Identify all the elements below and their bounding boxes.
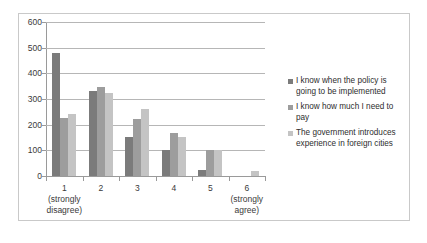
y-axis-tick-label: 600 (16, 18, 42, 27)
bar-group (156, 22, 193, 176)
bar (214, 150, 222, 176)
bar (206, 150, 214, 176)
chart-legend: I know when the policy is going to be im… (288, 76, 404, 154)
bar-group (229, 22, 266, 176)
bar (68, 114, 76, 176)
bar (105, 93, 113, 176)
x-axis-tick-mark (46, 177, 47, 181)
bar (60, 118, 68, 176)
x-axis-tick-mark (229, 177, 230, 181)
bar (125, 137, 133, 176)
x-axis-anchor-label: agree) (212, 205, 282, 216)
bar (170, 133, 178, 176)
chart-figure: 6005004003002001000 I know when the poli… (0, 0, 427, 243)
x-axis-anchor-label: disagree) (29, 205, 99, 216)
bar (52, 53, 60, 176)
bar (162, 150, 170, 176)
legend-item[interactable]: I know how much I need to pay (288, 102, 404, 123)
bar (251, 171, 259, 176)
legend-label: I know how much I need to pay (296, 102, 404, 123)
bar-group (46, 22, 83, 176)
y-axis-tick-mark (42, 48, 46, 49)
y-axis-tick-mark (42, 99, 46, 100)
bar (97, 87, 105, 176)
y-axis-tick-label: 200 (16, 120, 42, 129)
bar (133, 119, 141, 176)
bar-group (83, 22, 120, 176)
legend-swatch-icon (288, 79, 293, 84)
legend-item[interactable]: I know when the policy is going to be im… (288, 76, 404, 97)
y-axis-tick-mark (42, 22, 46, 23)
x-axis-tick-mark (192, 177, 193, 181)
x-axis-anchor-label: (strongly (29, 194, 99, 205)
bar-group (192, 22, 229, 176)
plot-area (46, 22, 265, 176)
y-axis-tick-label: 0 (16, 172, 42, 181)
bar (89, 91, 97, 176)
y-axis-tick-label: 100 (16, 146, 42, 155)
y-axis-tick-mark (42, 73, 46, 74)
x-axis-tick-mark (265, 177, 266, 181)
bar-group (119, 22, 156, 176)
x-axis-tick-label: 6(stronglyagree) (212, 183, 282, 216)
x-axis-tick-mark (83, 177, 84, 181)
legend-label: The government introduces experience in … (296, 128, 404, 149)
legend-swatch-icon (288, 105, 293, 110)
legend-swatch-icon (288, 131, 293, 136)
x-axis-category-value: 6 (244, 183, 249, 193)
bar (178, 137, 186, 176)
x-axis-tick-mark (119, 177, 120, 181)
bar (141, 109, 149, 176)
y-axis-tick-mark (42, 125, 46, 126)
y-axis-tick-labels: 6005004003002001000 (12, 22, 42, 176)
x-axis-tick-mark (156, 177, 157, 181)
x-axis-anchor-label: (strongly (212, 194, 282, 205)
legend-label: I know when the policy is going to be im… (296, 76, 404, 97)
bar (198, 170, 206, 176)
legend-item[interactable]: The government introduces experience in … (288, 128, 404, 149)
y-axis-tick-label: 300 (16, 95, 42, 104)
y-axis-tick-mark (42, 150, 46, 151)
y-axis-tick-label: 400 (16, 69, 42, 78)
y-axis-tick-label: 500 (16, 43, 42, 52)
